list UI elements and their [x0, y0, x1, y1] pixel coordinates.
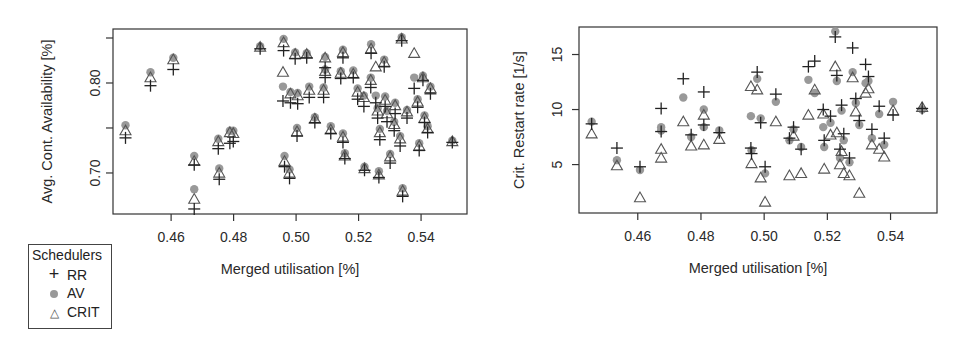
crit-point	[830, 61, 841, 71]
plus-icon: +	[45, 266, 63, 283]
rr-point	[339, 153, 351, 165]
rr-point	[394, 140, 406, 152]
rr-point	[422, 126, 434, 138]
rr-point	[887, 109, 899, 121]
crit-point	[850, 106, 861, 116]
legend: Schedulers +RR AV △CRIT	[28, 244, 112, 329]
x-axis-label: Merged utilisation [%]	[221, 261, 360, 277]
rr-point	[284, 97, 296, 109]
av-point	[747, 112, 755, 120]
rr-point	[446, 136, 458, 148]
crit-point	[770, 116, 781, 126]
rr-point	[847, 42, 859, 54]
legend-item-rr: +RR	[45, 266, 87, 283]
rr-point	[212, 143, 224, 155]
rr-point	[755, 117, 767, 129]
rr-point	[373, 171, 385, 183]
y-axis-label: Avg. Cont. Availability [%]	[39, 40, 55, 204]
rr-point	[365, 47, 377, 59]
rr-point	[188, 159, 200, 171]
y-tick-label: 0.70	[87, 159, 103, 186]
rr-point	[188, 203, 200, 215]
rr-point	[834, 143, 846, 155]
rr-point	[866, 123, 878, 135]
rr-point	[167, 63, 179, 75]
rr-point	[655, 126, 667, 138]
rr-point	[301, 52, 313, 64]
x-tick-label: 0.52	[814, 228, 841, 244]
rr-point	[817, 104, 829, 116]
y-tick-label: 0.80	[87, 69, 103, 96]
x-tick-label: 0.50	[751, 228, 778, 244]
av-point	[679, 93, 687, 101]
x-axis: 0.460.480.500.520.54Merged utilisation […	[157, 214, 434, 277]
triangle-icon: △	[45, 305, 63, 322]
av-point	[804, 76, 812, 84]
rr-point	[838, 128, 850, 140]
av-point	[279, 82, 287, 90]
x-tick-label: 0.50	[282, 229, 309, 245]
crit-point	[409, 48, 420, 58]
y-tick-label: 15	[549, 47, 565, 63]
y-axis-label: Crit. Restart rate [1/s]	[511, 51, 527, 189]
rr-point	[873, 100, 885, 112]
rr-point	[634, 161, 646, 173]
x-axis: 0.460.480.500.520.54Merged utilisation […	[624, 213, 904, 276]
crit-point	[836, 146, 847, 156]
x-tick-label: 0.48	[687, 228, 714, 244]
rr-point	[829, 31, 841, 43]
x-tick-label: 0.46	[624, 228, 651, 244]
rr-point	[751, 66, 763, 78]
rr-point	[698, 86, 710, 98]
rr-point	[586, 118, 598, 130]
crit-point	[277, 67, 288, 77]
series-rr	[586, 31, 929, 173]
rr-point	[850, 93, 862, 105]
x-tick-label: 0.52	[345, 229, 372, 245]
rr-point	[396, 35, 408, 47]
y-tick-label: 10	[549, 102, 565, 118]
rr-point	[685, 129, 697, 141]
rr-point	[795, 143, 807, 155]
rr-point	[359, 164, 371, 176]
crit-point	[831, 127, 842, 137]
series-av	[587, 27, 926, 177]
rr-point	[413, 144, 425, 156]
rr-point	[916, 102, 928, 114]
crit-point	[698, 139, 709, 149]
y-tick-label: 5	[549, 160, 565, 168]
filled-circle-icon	[45, 285, 63, 302]
crit-point	[803, 110, 814, 120]
y-axis: 51015Crit. Restart rate [1/s]	[511, 47, 579, 189]
scatter-plot-right: 0.460.480.500.520.54Merged utilisation […	[511, 27, 937, 276]
av-point	[190, 185, 198, 193]
rr-point	[303, 91, 315, 103]
x-tick-label: 0.54	[407, 229, 434, 245]
rr-point	[746, 148, 758, 160]
figure: 0.460.480.500.520.54Merged utilisation […	[0, 0, 968, 360]
crit-point	[819, 163, 830, 173]
rr-point	[860, 58, 872, 70]
rr-point	[289, 53, 301, 65]
rr-point	[291, 130, 303, 142]
rr-point	[836, 99, 848, 111]
crit-point	[678, 116, 689, 126]
crit-point	[686, 140, 697, 150]
crit-point	[656, 152, 667, 162]
rr-point	[783, 132, 795, 144]
rr-point	[347, 72, 359, 84]
crit-point	[760, 196, 771, 206]
rr-point	[254, 43, 266, 55]
rr-point	[802, 61, 814, 73]
rr-point	[825, 110, 837, 122]
series-rr	[119, 35, 458, 215]
crit-point	[634, 192, 645, 202]
rr-point	[224, 137, 236, 149]
rr-point	[788, 121, 800, 133]
rr-point	[374, 134, 386, 146]
rr-point	[878, 132, 890, 144]
x-tick-label: 0.54	[877, 228, 904, 244]
legend-item-crit: △CRIT	[45, 304, 100, 321]
av-point	[819, 123, 827, 131]
rr-point	[809, 55, 821, 67]
